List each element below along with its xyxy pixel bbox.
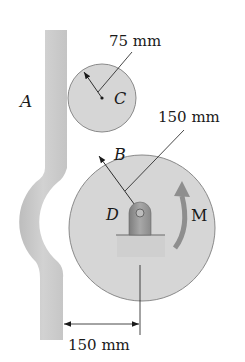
label-a: A xyxy=(18,91,32,111)
label-75mm: 75 mm xyxy=(109,32,161,50)
label-d: D xyxy=(105,205,119,224)
label-b: B xyxy=(113,145,126,164)
label-c: C xyxy=(114,89,126,108)
label-m: M xyxy=(191,206,207,225)
bar-a xyxy=(19,30,67,340)
label-150mm-radius: 150 mm xyxy=(158,108,220,126)
mechanism-diagram: A C B D M 75 mm 150 mm 150 mm xyxy=(0,0,245,362)
pin-d xyxy=(136,209,144,217)
label-150mm-offset: 150 mm xyxy=(68,336,130,354)
